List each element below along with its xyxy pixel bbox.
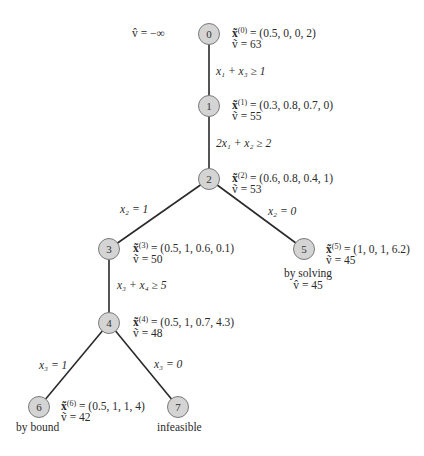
node-2: 2 — [198, 168, 220, 190]
node-4: 4 — [98, 312, 120, 334]
node-6-note: by bound — [16, 421, 59, 433]
edge-label-2-3: x₂ = 1 — [120, 203, 148, 215]
edge-label-1-2: 2x₁ + x₂ ≥ 2 — [216, 137, 271, 149]
node-3-info: x̃(3) = (0.5, 1, 0.6, 0.1) ṽ = 50 — [133, 240, 234, 265]
node-5-info: x̃(5) = (1, 0, 1, 6.2) ṽ = 45 — [326, 241, 410, 266]
edge-label-4-7: x₃ = 0 — [154, 358, 182, 370]
edge-label-0-1: x₁ + x₃ ≥ 1 — [216, 65, 266, 77]
node-2-info: x̃(2) = (0.6, 0.8, 0.4, 1) ṽ = 53 — [232, 170, 333, 195]
node-0-info: x̃(0) = (0.5, 0, 0, 2) ṽ = 63 — [232, 25, 316, 50]
node-6: 6 — [28, 396, 50, 418]
node-0: 0 — [198, 23, 220, 45]
root-bound: v̂ = −∞ — [132, 27, 165, 39]
node-3: 3 — [98, 238, 120, 260]
tree-edges — [0, 0, 424, 456]
node-7: 7 — [167, 396, 189, 418]
node-7-note: infeasible — [157, 421, 202, 433]
node-1: 1 — [198, 95, 220, 117]
edge-label-3-4: x₃ + x₄ ≥ 5 — [117, 279, 167, 291]
branch-and-bound-tree: v̂ = −∞ 0 1 2 3 4 5 6 7 x̃(0) = (0.5, 0,… — [0, 0, 424, 456]
node-4-info: x̃(4) = (0.5, 1, 0.7, 4.3) ṽ = 48 — [133, 314, 234, 339]
node-5-note: by solving v̂ = 45 — [275, 267, 341, 291]
node-5: 5 — [293, 238, 315, 260]
node-6-info: x̃(6) = (0.5, 1, 1, 4) ṽ = 42 — [61, 398, 145, 423]
edge-label-2-5: x₂ = 0 — [268, 205, 296, 217]
edge-label-4-6: x₃ = 1 — [39, 359, 67, 371]
node-1-info: x̃(1) = (0.3, 0.8, 0.7, 0) ṽ = 55 — [232, 97, 333, 122]
